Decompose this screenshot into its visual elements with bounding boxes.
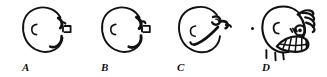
panel-label-a: A <box>22 62 29 73</box>
panel-label-c: C <box>177 62 184 73</box>
panel-label-d: D <box>262 62 270 73</box>
panel-d-eye-spot-pupil <box>298 29 302 33</box>
figure-background <box>0 0 327 77</box>
panel-label-b: B <box>101 62 108 73</box>
panel-d-left-dot <box>251 27 254 30</box>
panel-d-ventral-bristle-3 <box>283 53 284 60</box>
figure-illustration <box>0 0 327 77</box>
figure-root: A B C D <box>0 0 327 77</box>
